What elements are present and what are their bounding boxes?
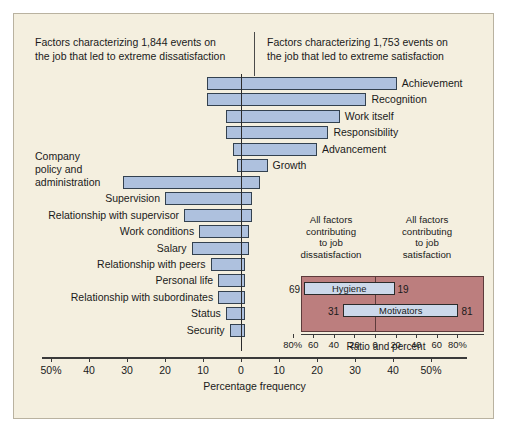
- inset-value-right-hygiene: 19: [398, 283, 409, 296]
- bar-label-company-policy-and-administration: Company policy and administration: [35, 150, 100, 189]
- x-tick-label-8: 30: [335, 364, 375, 376]
- bar-label-supervision: Supervision: [105, 192, 160, 205]
- inset-value-left-hygiene: 69: [289, 283, 300, 296]
- inset-tick-7: [437, 334, 438, 338]
- x-tick-6: [279, 357, 280, 362]
- inset-tick-label-8: 80%: [442, 339, 472, 350]
- inset-tick-6: [416, 334, 417, 338]
- bar-work-itself: [226, 110, 340, 123]
- chart-panel: Factors characterizing 1,844 events on t…: [13, 13, 494, 419]
- bar-label-recognition: Recognition: [371, 93, 426, 106]
- x-tick-label-1: 40: [69, 364, 109, 376]
- x-tick-label-7: 20: [297, 364, 337, 376]
- x-axis-line: [42, 357, 467, 359]
- inset-bar-label-motivators: Motivators: [344, 305, 457, 316]
- bar-label-advancement: Advancement: [322, 143, 386, 156]
- bar-label-work-itself: Work itself: [345, 110, 394, 123]
- inset-caption-dissatisfaction: All factors contributing to job dissatis…: [288, 214, 374, 260]
- inset-tick-3: [354, 334, 355, 338]
- x-tick-label-9: 40: [373, 364, 413, 376]
- bar-label-relationship-with-peers: Relationship with peers: [97, 258, 206, 271]
- x-axis-title: Percentage frequency: [14, 380, 494, 392]
- inset-bar-motivators: Motivators: [343, 304, 458, 317]
- x-tick-label-6: 10: [259, 364, 299, 376]
- bar-label-security: Security: [187, 324, 225, 337]
- bar-label-relationship-with-supervisor: Relationship with supervisor: [48, 209, 179, 222]
- bar-label-work-conditions: Work conditions: [120, 225, 195, 238]
- x-tick-label-10: 50%: [411, 364, 451, 376]
- bar-relationship-with-peers: [211, 258, 245, 271]
- bar-achievement: [207, 77, 397, 90]
- bar-supervision: [165, 192, 252, 205]
- x-tick-label-2: 30: [107, 364, 147, 376]
- ratio-inset: All factors contributing to job dissatis…: [288, 214, 484, 354]
- x-tick-0: [51, 357, 52, 362]
- x-tick-9: [393, 357, 394, 362]
- inset-bar-hygiene: Hygiene: [304, 282, 395, 295]
- x-tick-8: [355, 357, 356, 362]
- x-tick-label-0: 50%: [31, 364, 71, 376]
- zero-axis-line: [241, 74, 242, 351]
- x-tick-10: [431, 357, 432, 362]
- x-tick-3: [165, 357, 166, 362]
- x-tick-label-4: 10: [183, 364, 223, 376]
- inset-tick-8: [457, 334, 458, 338]
- bar-label-salary: Salary: [157, 242, 187, 255]
- inset-value-right-motivators: 81: [461, 305, 472, 318]
- x-tick-4: [203, 357, 204, 362]
- inset-tick-1: [313, 334, 314, 338]
- bar-company-policy-and-administration: [123, 176, 260, 189]
- inset-tick-5: [396, 334, 397, 338]
- bar-label-relationship-with-subordinates: Relationship with subordinates: [71, 291, 213, 304]
- bar-label-achievement: Achievement: [402, 77, 463, 90]
- bar-label-growth: Growth: [273, 159, 307, 172]
- bar-security: [230, 324, 245, 337]
- bar-label-personal-life: Personal life: [155, 274, 213, 287]
- bar-label-status: Status: [191, 307, 221, 320]
- x-tick-2: [127, 357, 128, 362]
- inset-caption-satisfaction: All factors contributing to job satisfac…: [384, 214, 470, 260]
- x-tick-label-5: 0: [221, 364, 261, 376]
- x-tick-7: [317, 357, 318, 362]
- inset-tick-0: [293, 334, 294, 338]
- bar-label-responsibility: Responsibility: [333, 126, 398, 139]
- inset-tick-4: [375, 334, 376, 338]
- inset-value-left-motivators: 31: [328, 305, 339, 318]
- x-tick-5: [241, 357, 242, 362]
- x-tick-1: [89, 357, 90, 362]
- x-tick-label-3: 20: [145, 364, 185, 376]
- bar-advancement: [233, 143, 317, 156]
- inset-bar-label-hygiene: Hygiene: [305, 283, 394, 294]
- inset-tick-2: [334, 334, 335, 338]
- bar-recognition: [207, 93, 367, 106]
